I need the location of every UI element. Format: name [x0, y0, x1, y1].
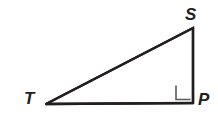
vertex-label-t: T	[24, 90, 34, 107]
vertex-label-s: S	[185, 6, 196, 23]
edge-leg-TP	[46, 103, 193, 104]
geometry-figure-right-triangle: S T P	[0, 0, 218, 125]
vertex-label-p: P	[198, 91, 209, 108]
